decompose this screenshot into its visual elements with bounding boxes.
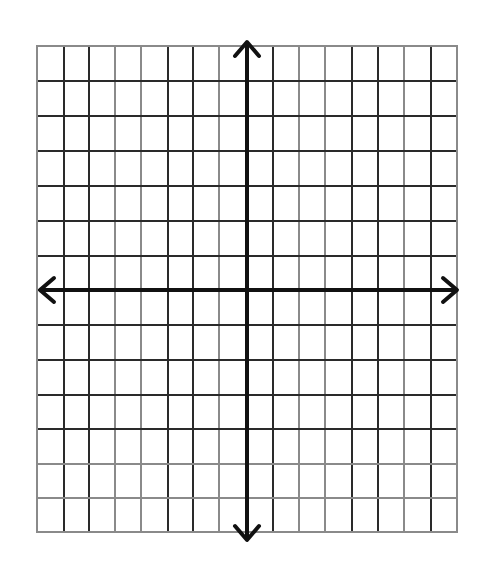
coordinate-plane [0,0,486,563]
